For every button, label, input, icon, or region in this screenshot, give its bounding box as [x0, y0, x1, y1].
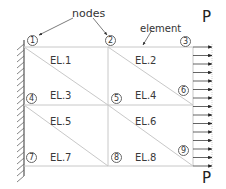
nodes-annotation: nodes — [72, 8, 105, 19]
node-5: 5 — [111, 93, 122, 104]
element-annotation: element — [140, 24, 181, 34]
load-label-top: P — [202, 10, 211, 25]
node-2: 2 — [105, 35, 116, 46]
node-7: 7 — [26, 152, 37, 163]
node-3: 3 — [180, 36, 191, 47]
node-9: 9 — [178, 145, 189, 156]
distributed-load-arrows — [193, 44, 212, 169]
node-1: 1 — [27, 35, 38, 46]
element-label: EL.5 — [50, 117, 71, 127]
fixed-support-wall — [17, 40, 24, 182]
node-4: 4 — [26, 93, 37, 104]
element-label: EL.3 — [50, 91, 71, 101]
element-label: EL.7 — [50, 153, 71, 163]
element-label: EL.8 — [135, 153, 156, 163]
fem-diagram: nodes element P P 123456789 EL.1EL.2EL.3… — [0, 0, 226, 189]
node-6: 6 — [178, 85, 189, 96]
load-label-bottom: P — [202, 171, 211, 186]
element-label: EL.2 — [135, 56, 156, 66]
node-8: 8 — [111, 152, 122, 163]
element-label: EL.4 — [135, 91, 156, 101]
annotation-leaders — [39, 18, 152, 45]
element-label: EL.1 — [50, 56, 71, 66]
element-label: EL.6 — [135, 117, 156, 127]
